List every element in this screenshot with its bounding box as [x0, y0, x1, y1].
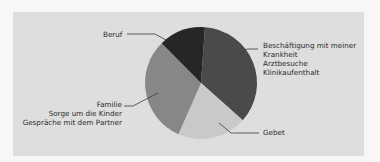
- label-krankheit-line-3: Arztbesuche: [263, 59, 356, 68]
- leader-line-beruf: [127, 34, 166, 40]
- label-krankheit: Beschäftigung mit meiner Krankheit Arztb…: [263, 41, 356, 77]
- label-krankheit-line-2: Krankheit: [263, 50, 356, 59]
- label-beruf: Beruf: [103, 30, 122, 39]
- label-familie-line-1: Familie: [23, 100, 122, 109]
- label-familie-line-2: Sorge um die Kinder: [23, 109, 122, 118]
- pie-slices: [145, 27, 257, 139]
- label-krankheit-line-1: Beschäftigung mit meiner: [263, 41, 356, 50]
- label-beruf-line: Beruf: [103, 30, 122, 39]
- label-familie: Familie Sorge um die Kinder Gespräche mi…: [23, 100, 122, 127]
- label-gebet: Gebet: [263, 128, 285, 137]
- label-krankheit-line-4: Klinikaufenthalt: [263, 68, 356, 77]
- label-gebet-line: Gebet: [263, 128, 285, 137]
- pie-chart: [0, 0, 380, 162]
- label-familie-line-3: Gespräche mit dem Partner: [23, 118, 122, 127]
